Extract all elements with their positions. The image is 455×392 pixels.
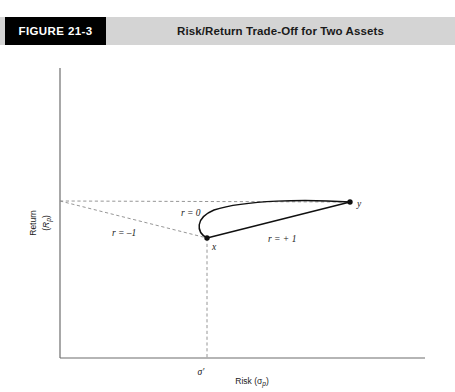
figure-number-label: FIGURE 21-3	[5, 17, 106, 45]
figure-header: FIGURE 21-3 Risk/Return Trade-Off for Tw…	[0, 17, 455, 45]
y-axis-title-paren-close: )	[41, 215, 51, 218]
r-zero-curve	[199, 201, 350, 238]
asset-x-label: x	[211, 242, 217, 252]
x-axis-title: Risk (σp)	[235, 376, 269, 388]
asset-point-x	[204, 235, 209, 240]
asset-point-y	[347, 199, 352, 204]
annotation-r-minus-one: r = –1	[112, 228, 136, 238]
x-axis-tick-sigma-prime: σ′	[198, 367, 206, 377]
asset-y-label: y	[356, 199, 362, 209]
annotation-r-plus-one: r = + 1	[268, 234, 296, 244]
x-axis-title-text: Risk (	[235, 376, 257, 386]
chart-plot-area: x y r = 0 r = –1 r = + 1 σ′ Return (Rp) …	[0, 45, 455, 392]
annotation-r-zero: r = 0	[181, 208, 201, 218]
y-axis-title-line2: (Rp)	[41, 215, 53, 231]
risk-return-chart: x y r = 0 r = –1 r = + 1 σ′ Return (Rp) …	[0, 45, 455, 392]
figure-tag-box: FIGURE 21-3	[5, 17, 106, 45]
figure-title: Risk/Return Trade-Off for Two Assets	[106, 17, 455, 45]
x-axis-title-paren-close: )	[266, 376, 269, 386]
y-axis-title-line1: Return	[28, 210, 38, 236]
r-plus-one-line	[207, 202, 350, 238]
